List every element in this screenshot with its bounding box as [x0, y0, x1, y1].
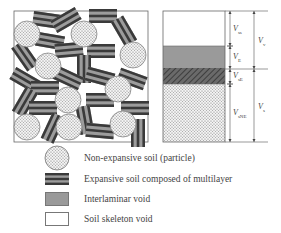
white-box-icon [44, 212, 70, 226]
legend-item-expansive: Expansive soil composed of multilayer [44, 170, 232, 188]
legend-item-skeleton-void: Soil skeleton void [44, 210, 153, 228]
dim-label-vv: Vv [258, 36, 265, 47]
dim-label-vse: VsE [233, 71, 243, 82]
dotted-circle-icon [44, 145, 70, 171]
legend-label: Non-expansive soil (particle) [84, 153, 195, 163]
volume-phase-column [163, 11, 225, 142]
legend-label: Interlaminar void [84, 194, 150, 204]
dim-label-vs: Vs [258, 102, 265, 113]
legend-label: Soil skeleton void [84, 214, 153, 224]
dim-label-vsne: VsNE [233, 108, 247, 119]
legend-item-interlaminar-void: Interlaminar void [44, 190, 150, 208]
soil-microstructure-panel [9, 7, 149, 147]
dim-label-ve: VE [233, 52, 241, 63]
legend-label: Expansive soil composed of multilayer [84, 174, 232, 184]
dimension-lines [225, 11, 268, 142]
dim-label-vss: Vss [233, 24, 242, 35]
legend-item-non-expansive: Non-expansive soil (particle) [44, 149, 195, 167]
grey-box-icon [44, 192, 70, 206]
multilayer-stack-icon [44, 173, 70, 185]
